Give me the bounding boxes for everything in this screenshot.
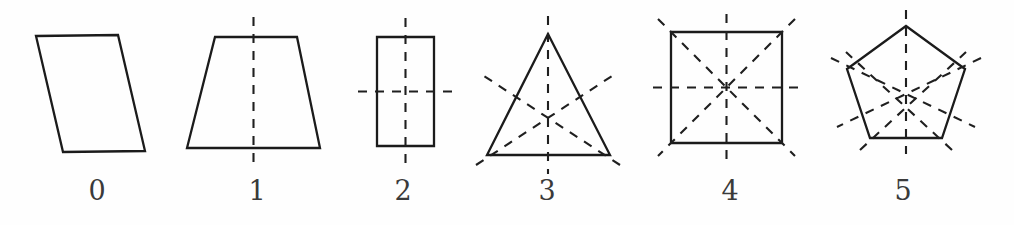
shape-label-5: 5 <box>894 175 911 206</box>
symmetry-line-equilateral-triangle-2 <box>476 74 615 165</box>
symmetry-line-regular-pentagon-5 <box>831 58 975 127</box>
symmetry-line-regular-pentagon-2 <box>837 58 981 127</box>
symmetry-figure: 012345 <box>0 0 1014 225</box>
shape-group-parallelogram <box>36 35 145 152</box>
shape-label-1: 1 <box>248 175 265 206</box>
symmetry-line-equilateral-triangle-3 <box>481 74 620 165</box>
shape-label-3: 3 <box>538 175 555 206</box>
symmetry-line-regular-pentagon-3 <box>846 52 952 150</box>
shape-group-trapezoid <box>187 17 320 168</box>
shape-outline-parallelogram <box>36 35 145 152</box>
figure-canvas: 012345 <box>0 0 1014 225</box>
shape-group-equilateral-triangle <box>476 16 620 174</box>
shape-group-square <box>653 14 800 161</box>
shape-label-0: 0 <box>88 175 105 206</box>
shape-group-regular-pentagon <box>831 10 981 154</box>
symmetry-line-regular-pentagon-4 <box>860 52 966 150</box>
shape-group-rectangle <box>358 18 453 165</box>
shape-label-2: 2 <box>394 175 411 206</box>
shape-label-4: 4 <box>721 175 738 206</box>
